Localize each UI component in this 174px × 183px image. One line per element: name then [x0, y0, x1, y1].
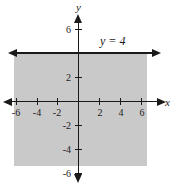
y-axis-down-arrow-icon — [74, 174, 82, 183]
y-tick-label-neg2: -2 — [56, 121, 71, 131]
x-tick-pos2 — [99, 98, 100, 105]
y-axis-line — [78, 20, 79, 178]
boundary-right-arrow-icon — [152, 49, 161, 57]
x-tick-label-pos6: 6 — [140, 108, 145, 118]
y-tick-label-neg4: -4 — [56, 145, 71, 155]
x-tick-label-neg4: -4 — [33, 108, 41, 118]
y-tick-pos2 — [75, 77, 82, 78]
y-tick-neg2 — [75, 125, 82, 126]
y-tick-label-neg6: -6 — [56, 169, 71, 179]
x-tick-neg6 — [16, 98, 17, 105]
y-tick-label-pos2: 2 — [59, 73, 71, 83]
coordinate-plane-figure: x y y = 4 -6 -4 -2 2 4 6 6 2 -2 -4 -6 — [0, 0, 174, 183]
y-axis-up-arrow-icon — [74, 14, 82, 23]
x-tick-label-pos4: 4 — [119, 108, 124, 118]
equation-label-y-equals-4: y = 4 — [100, 35, 125, 47]
x-tick-label-pos2: 2 — [98, 108, 103, 118]
x-tick-neg2 — [57, 98, 58, 105]
boundary-line-y-equals-4 — [14, 52, 155, 54]
y-tick-label-pos6: 6 — [59, 25, 71, 35]
x-axis-line — [8, 101, 161, 102]
y-tick-pos6 — [75, 29, 82, 30]
x-axis-left-arrow-icon — [3, 98, 12, 106]
x-tick-pos6 — [141, 98, 142, 105]
x-tick-neg4 — [37, 98, 38, 105]
y-axis-label: y — [76, 2, 81, 13]
y-tick-neg4 — [75, 149, 82, 150]
boundary-left-arrow-icon — [8, 49, 17, 57]
x-axis-label: x — [165, 97, 170, 108]
x-tick-label-neg2: -2 — [53, 108, 61, 118]
y-tick-neg6 — [75, 173, 82, 174]
x-tick-pos4 — [120, 98, 121, 105]
x-tick-label-neg6: -6 — [12, 108, 20, 118]
